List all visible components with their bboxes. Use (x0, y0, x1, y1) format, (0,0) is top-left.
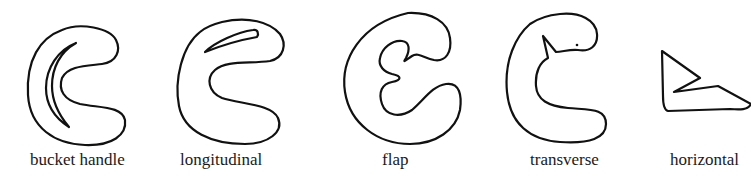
meniscus-wedge-outline (662, 51, 751, 111)
bucket-handle-figure (28, 26, 125, 145)
dot-mark (576, 44, 579, 47)
figure-label: bucket handle (30, 150, 125, 170)
longitudinal-tear (205, 30, 258, 52)
figure-label: horizontal (670, 150, 739, 170)
flap-figure (344, 13, 460, 144)
transverse-figure (507, 14, 606, 143)
longitudinal-figure (178, 20, 284, 144)
figure-label: transverse (530, 150, 599, 170)
figure-label: longitudinal (180, 150, 262, 170)
meniscus-outline (28, 26, 125, 145)
horizontal-figure (662, 51, 751, 111)
meniscus-outline (507, 14, 606, 143)
meniscus-outline (344, 13, 460, 144)
figure-label: flap (382, 150, 408, 170)
meniscus-outline (178, 20, 284, 144)
